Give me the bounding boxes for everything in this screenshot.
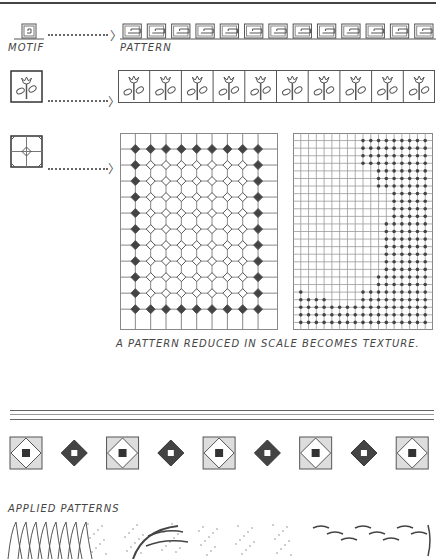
diamond-grid-pattern [120,133,278,330]
caption: A PATTERN REDUCED IN SCALE BECOMES TEXTU… [116,338,420,349]
motif-label: MOTIF [8,42,44,53]
greek-key-pattern [120,22,436,40]
applied-patterns-label: APPLIED PATTERNS [8,503,120,514]
dotted-leader [48,168,108,170]
border-band [10,436,430,470]
dotted-leader [48,34,108,36]
applied-patterns-illustration [8,520,438,559]
texture-grid [293,133,433,330]
pattern-label: PATTERN [120,42,172,53]
tulip-motif-icon [10,70,43,103]
grid-diamond-motif-icon [10,135,43,168]
dotted-leader [48,100,108,102]
tulip-pattern [118,70,435,103]
arrow-icon: 〉 [108,160,120,177]
greek-key-motif-icon [14,22,44,40]
double-rule [10,410,434,420]
top-rule [0,2,436,4]
